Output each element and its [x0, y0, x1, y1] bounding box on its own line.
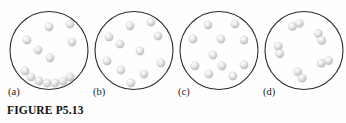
particles-d: [274, 19, 333, 82]
particles-a: [21, 20, 76, 87]
vessel-d: [263, 8, 345, 93]
diatomic-molecule: [317, 56, 333, 67]
figure-caption: FIGURE P5.13: [7, 104, 84, 116]
particles-c: [189, 20, 248, 80]
panel-label-d: (d): [263, 86, 275, 97]
vessel-a: [8, 8, 90, 93]
vessel-c: [178, 8, 260, 93]
panel-b: [93, 8, 175, 93]
vessel-b: [93, 8, 175, 93]
diatomic-molecule: [294, 68, 307, 83]
panel-label-a: (a): [8, 86, 20, 97]
panel-label-b: (b): [93, 86, 105, 97]
particles-b: [103, 18, 165, 87]
panel-c: [178, 8, 260, 93]
figure-p5-13: (a) (b) (c) (d) FIGURE P5.13: [0, 0, 346, 123]
diatomic-molecule: [288, 19, 303, 31]
diatomic-molecule: [274, 42, 284, 58]
panel-label-c: (c): [178, 86, 190, 97]
panel-a: [8, 8, 90, 93]
diatomic-molecule: [314, 29, 326, 44]
panel-d: [263, 8, 345, 93]
